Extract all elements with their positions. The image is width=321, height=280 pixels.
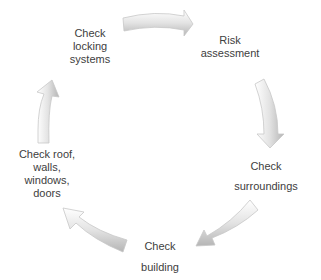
step-label-line: walls,: [7, 161, 87, 174]
step-label-line: Risk: [195, 34, 265, 47]
arrow-surroundings-to-building: [196, 200, 258, 246]
step-label-line: surroundings: [226, 176, 306, 196]
step-label-line: locking: [60, 40, 120, 53]
arrow-risk-to-surroundings: [255, 79, 284, 148]
step-check-surroundings: Check surroundings: [226, 156, 306, 196]
step-label-line: Check: [130, 236, 190, 257]
arrow-building-to-roof: [63, 208, 127, 252]
step-label-line: Check: [226, 156, 306, 176]
step-check-roof: Check roof, walls, windows, doors: [7, 148, 87, 200]
step-label-line: Check: [60, 27, 120, 40]
step-label-line: Check roof,: [7, 148, 87, 161]
step-label-line: doors: [7, 187, 87, 200]
step-label-line: assessment: [195, 47, 265, 60]
step-label-line: building: [130, 257, 190, 278]
step-label-line: systems: [60, 53, 120, 66]
arrow-roof-to-locking: [37, 80, 59, 143]
step-label-line: windows,: [7, 174, 87, 187]
step-check-building: Check building: [130, 236, 190, 278]
step-risk-assessment: Risk assessment: [195, 34, 265, 60]
step-check-locking-systems: Check locking systems: [60, 27, 120, 66]
arrow-locking-to-risk: [123, 10, 193, 36]
